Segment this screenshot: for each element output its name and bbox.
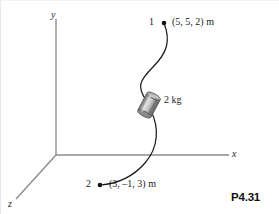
collar-mass — [136, 90, 161, 119]
x-axis-label: x — [232, 149, 236, 159]
figure-container: y x z 1 (5, 5, 2) m 2 (3, –1, 3) m 2 kg … — [0, 0, 279, 214]
z-axis-line — [16, 155, 56, 199]
y-axis-label: y — [51, 10, 55, 20]
z-axis-label: z — [8, 199, 12, 209]
point-marker-2 — [98, 183, 103, 188]
figure-number: P4.31 — [231, 191, 260, 203]
path-curve-lower — [100, 111, 156, 185]
point-1-number: 1 — [149, 17, 154, 27]
path-curve-upper — [141, 23, 168, 100]
point-1-coordinates: (5, 5, 2) m — [172, 17, 214, 27]
point-2-number: 2 — [86, 179, 91, 189]
point-2-coordinates: (3, –1, 3) m — [109, 179, 156, 189]
point-marker-1 — [162, 21, 167, 26]
mass-label: 2 kg — [164, 95, 182, 105]
